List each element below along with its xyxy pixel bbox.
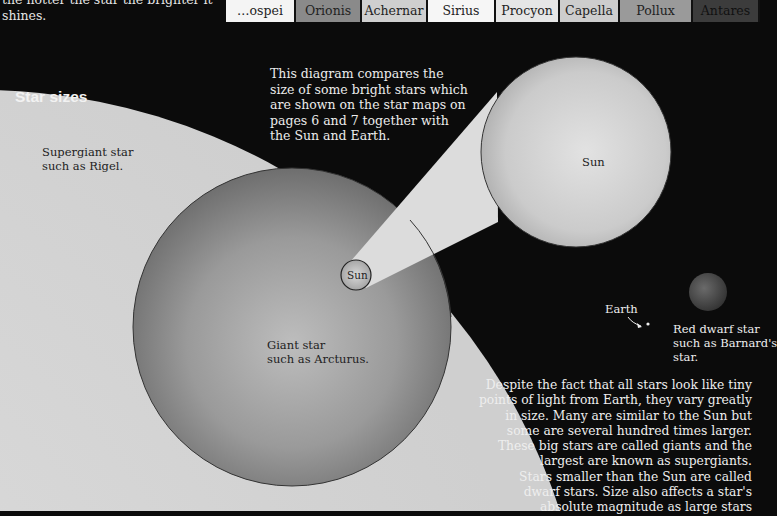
- supergiant-label: Supergiant star such as Rigel.: [42, 145, 133, 173]
- sun-large-label: Sun: [582, 155, 605, 169]
- earth-dot: [646, 322, 649, 325]
- star-color-cell: Antares: [693, 0, 760, 22]
- red-dwarf-label: Red dwarf star such as Barnard's star.: [673, 322, 777, 364]
- body-paragraph: Despite the fact that all stars look lik…: [462, 378, 752, 516]
- star-color-cell: Sirius: [428, 0, 496, 22]
- star-color-cell: …ospei: [226, 0, 296, 22]
- earth-label: Earth: [605, 302, 638, 316]
- diagram-description: This diagram compares the size of some b…: [270, 66, 470, 144]
- intro-line: the hotter the star the brighter it: [2, 0, 217, 8]
- section-heading: Star sizes: [15, 88, 87, 106]
- star-color-bar: …ospei Orionis Achernar Sirius Procyon C…: [226, 0, 760, 22]
- giant-label: Giant star such as Arcturus.: [267, 338, 369, 366]
- sun-small-label: Sun: [347, 268, 368, 282]
- star-color-cell: Capella: [560, 0, 620, 22]
- intro-line: shines.: [2, 8, 217, 24]
- red-dwarf-shape: [689, 273, 727, 311]
- star-color-cell: Orionis: [296, 0, 362, 22]
- intro-text: the hotter the star the brighter it shin…: [2, 0, 217, 24]
- sun-large-shape: [481, 57, 671, 247]
- star-color-cell: Procyon: [496, 0, 560, 22]
- star-color-cell: Pollux: [620, 0, 693, 22]
- star-color-cell: Achernar: [362, 0, 428, 22]
